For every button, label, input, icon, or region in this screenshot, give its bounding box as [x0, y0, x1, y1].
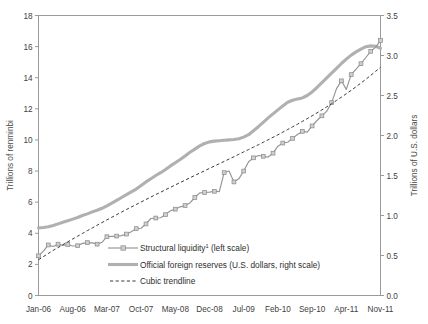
data-point-marker [349, 73, 353, 77]
data-point-marker [144, 222, 148, 226]
right-axis-title: Trillions of U.S. dollars [410, 115, 419, 197]
data-point-marker [340, 79, 344, 83]
right-tick-label: 1.5 [387, 172, 399, 181]
left-tick-label: 16 [23, 43, 33, 52]
data-point-marker [291, 136, 295, 140]
data-point-marker [154, 216, 158, 220]
x-tick-label: Mar-07 [94, 305, 120, 314]
economic-line-chart: 024681012141618 0.00.51.01.52.02.53.03.5… [0, 0, 428, 324]
data-point-marker [115, 234, 119, 238]
legend-item: Official foreign reserves (U.S. dollars,… [108, 260, 320, 270]
data-point-marker [203, 191, 207, 195]
left-tick-label: 14 [23, 74, 33, 83]
right-tick-label: 2.5 [387, 92, 399, 101]
left-tick-label: 10 [23, 136, 33, 145]
x-tick-label: Nov-11 [368, 305, 394, 314]
data-point-marker [271, 151, 275, 155]
x-tick-label: Aug-06 [59, 305, 86, 314]
right-tick-label: 0.0 [387, 292, 399, 301]
data-point-marker [232, 180, 236, 184]
x-tick-label: May-08 [162, 305, 190, 314]
data-point-marker [379, 38, 383, 42]
left-tick-label: 8 [28, 167, 33, 176]
x-tick-label: Jan-06 [26, 305, 51, 314]
data-point-marker [310, 124, 314, 128]
x-tick-label: Dec-08 [196, 305, 223, 314]
left-tick-label: 12 [23, 105, 33, 114]
right-tick-label: 1.0 [387, 212, 399, 221]
data-point-marker [261, 154, 265, 158]
data-point-marker [85, 241, 89, 245]
data-point-marker [242, 169, 246, 173]
x-tick-label: Oct-07 [129, 305, 154, 314]
data-point-marker [37, 254, 41, 258]
data-point-marker [46, 243, 50, 247]
data-point-marker [164, 213, 168, 217]
left-tick-label: 18 [23, 12, 33, 21]
right-tick-label: 3.0 [387, 52, 399, 61]
legend-square-marker [121, 246, 125, 250]
data-point-marker [359, 62, 363, 66]
x-tick-label: Feb-10 [265, 305, 291, 314]
right-tick-label: 0.5 [387, 252, 399, 261]
data-point-marker [134, 227, 138, 231]
data-point-marker [320, 114, 324, 118]
data-point-marker [252, 156, 256, 160]
x-tick-label: Jul-09 [233, 305, 256, 314]
chart-container: 024681012141618 0.00.51.01.52.02.53.03.5… [0, 0, 428, 324]
left-tick-label: 0 [28, 292, 33, 301]
data-point-marker [183, 204, 187, 208]
data-point-marker [281, 141, 285, 145]
data-point-marker [222, 171, 226, 175]
data-point-marker [56, 242, 60, 246]
legend-label: Cubic trendline [140, 276, 196, 286]
x-tick-label: Sep-10 [299, 305, 326, 314]
left-tick-label: 2 [28, 260, 33, 269]
legend-label: Official foreign reserves (U.S. dollars,… [140, 260, 320, 270]
left-tick-label: 6 [28, 198, 33, 207]
data-point-marker [95, 242, 99, 246]
data-point-marker [173, 207, 177, 211]
right-tick-label: 3.5 [387, 12, 399, 21]
x-tick-label: Apr-11 [334, 305, 358, 314]
data-point-marker [369, 49, 373, 53]
data-point-marker [212, 189, 216, 193]
left-tick-label: 4 [28, 229, 33, 238]
x-axis-tick-labels: Jan-06Aug-06Mar-07Oct-07May-08Dec-08Jul-… [26, 305, 394, 314]
right-tick-label: 2.0 [387, 132, 399, 141]
data-point-marker [105, 235, 109, 239]
data-point-marker [193, 196, 197, 200]
data-point-marker [66, 243, 70, 247]
data-point-marker [76, 244, 80, 248]
left-axis-title: Trillions of renminbi [6, 120, 15, 191]
data-point-marker [125, 232, 129, 236]
data-point-marker [300, 129, 304, 133]
legend-label: Structural liquidity1 (left scale) [140, 243, 249, 253]
